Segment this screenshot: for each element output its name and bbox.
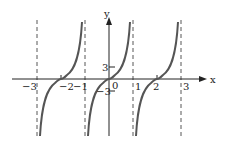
x-axis-arrow-icon: [199, 76, 207, 82]
y-tick-label-3: 3: [102, 62, 108, 73]
tangent-chart: x y −3 −2 −1 0 1 2 3 3 −3: [0, 0, 227, 145]
y-axis-label: y: [103, 8, 110, 19]
x-tick-label-0: 0: [112, 80, 118, 91]
x-tick-label-minus-2: −2: [59, 81, 74, 92]
x-tick-label-1: 1: [135, 81, 141, 92]
x-tick-label-2: 2: [153, 81, 159, 92]
y-tick-label-minus-3: −3: [96, 86, 111, 97]
x-tick-label-minus-1: −1: [73, 81, 88, 92]
x-tick-label-minus-3: −3: [22, 81, 37, 92]
x-axis-label: x: [210, 74, 216, 85]
x-tick-label-3: 3: [183, 81, 189, 92]
